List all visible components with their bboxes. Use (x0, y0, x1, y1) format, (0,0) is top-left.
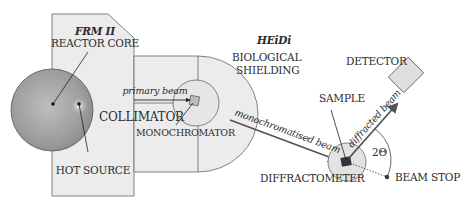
diagram-title: HEiDi (256, 34, 291, 46)
hot-source-label: HOT SOURCE (56, 164, 130, 176)
two-theta-label: 2Θ (372, 146, 387, 158)
diagram-canvas: FRM II REACTOR CORE HOT SOURCE primary b… (0, 0, 465, 205)
biological-label-line1: BIOLOGICAL (232, 51, 301, 63)
heidi-diagram: FRM II REACTOR CORE HOT SOURCE primary b… (0, 0, 465, 205)
primary-beam-label: primary beam (122, 85, 187, 96)
sample-label: SAMPLE (319, 92, 365, 104)
monochromator-crystal (189, 95, 199, 105)
monochromator-label: MONOCHROMATOR (136, 127, 236, 138)
collimator-label: COLLIMATOR (99, 110, 185, 124)
detector-label: DETECTOR (346, 55, 408, 67)
reactor-core-label: REACTOR CORE (51, 37, 139, 49)
beam-stop-label: BEAM STOP (395, 171, 460, 183)
biological-label-line2: SHIELDING (236, 64, 299, 76)
diffractometer-label: DIFFRACTOMETER (260, 172, 366, 184)
facility-label: FRM II (74, 25, 116, 37)
